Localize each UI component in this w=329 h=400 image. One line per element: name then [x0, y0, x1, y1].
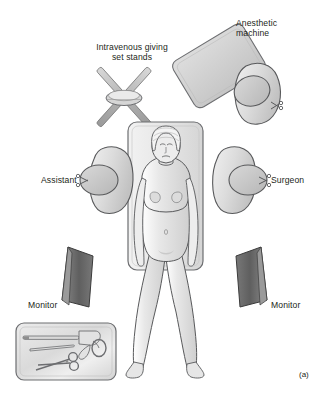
label-monitor-right: Monitor	[271, 300, 300, 310]
figure-canvas: Anesthetic machine Intravenous giving se…	[0, 0, 329, 400]
label-assistant: Assistant	[41, 175, 77, 185]
figure-caption: (a)	[299, 370, 309, 379]
label-surgeon: Surgeon	[271, 175, 304, 185]
monitor-left	[62, 247, 93, 307]
label-intravenous-giving-set-stands: Intravenous giving set stands	[80, 42, 184, 63]
assistant-figure	[76, 147, 133, 214]
label-anesthetic-machine: Anesthetic machine	[236, 18, 277, 39]
monitor-right	[236, 247, 267, 307]
intravenous-giving-set-stands	[96, 67, 152, 128]
surgeon-figure	[213, 147, 271, 214]
instrument-tray	[16, 323, 116, 380]
label-monitor-left: Monitor	[28, 300, 57, 310]
